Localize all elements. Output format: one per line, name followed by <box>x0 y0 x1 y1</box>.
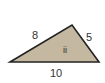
triangle-diagram: 8 5 10 ii <box>0 0 105 83</box>
interior-label: ii <box>63 45 67 55</box>
side-label-left: 8 <box>32 29 38 41</box>
side-label-bottom: 10 <box>50 67 62 79</box>
side-label-right: 5 <box>86 31 92 43</box>
